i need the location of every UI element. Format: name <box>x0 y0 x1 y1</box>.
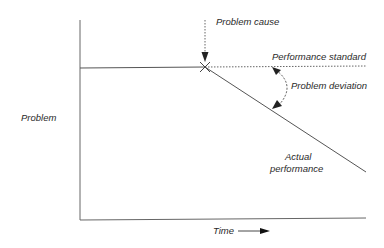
x-axis <box>80 218 366 220</box>
problem-cause-arrowhead-icon <box>202 52 209 62</box>
problem-deviation-arc <box>276 70 287 106</box>
problem-deviation-label: Problem deviation <box>291 81 367 91</box>
deviation-arrowhead-bottom-icon <box>272 100 282 109</box>
y-axis-label: Problem <box>21 113 56 123</box>
deviation-arrowhead-top-icon <box>272 67 281 75</box>
actual-performance-label-line2: performance <box>270 164 323 174</box>
performance-standard-line <box>205 66 367 67</box>
problem-cause-label: Problem cause <box>216 17 279 27</box>
x-axis-label: Time <box>213 226 234 236</box>
time-arrowhead-icon <box>260 228 270 234</box>
diagram-canvas <box>0 0 384 248</box>
performance-standard-label: Performance standard <box>272 52 366 62</box>
actual-performance-label-line1: Actual <box>285 152 311 162</box>
baseline-performance-line <box>80 67 205 68</box>
